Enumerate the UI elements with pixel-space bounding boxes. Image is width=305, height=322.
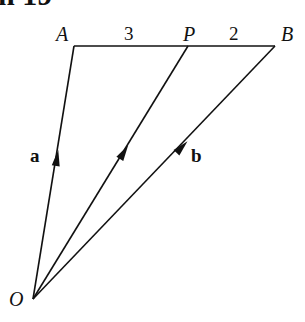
- vector-label-a: a: [30, 146, 40, 165]
- arrowhead-ob: [174, 138, 191, 155]
- vector-label-b: b: [191, 146, 202, 165]
- vector-ob: [33, 46, 275, 299]
- point-label-o: O: [9, 289, 23, 309]
- vector-oa: [33, 46, 74, 299]
- segment-label-pb: 2: [229, 24, 239, 43]
- point-label-a: A: [56, 24, 68, 44]
- vector-diagram: [0, 0, 305, 322]
- vector-op: [33, 46, 188, 299]
- segment-label-ap: 3: [124, 24, 134, 43]
- point-label-b: B: [281, 24, 293, 44]
- point-label-p: P: [183, 24, 195, 44]
